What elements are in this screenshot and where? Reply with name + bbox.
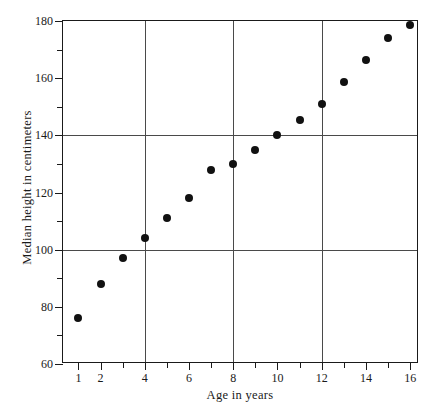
x-tick-major — [233, 362, 234, 370]
y-tick-label: 120 — [35, 185, 53, 200]
y-tick-major — [55, 193, 63, 194]
x-tick-minor — [255, 362, 256, 368]
y-tick-label: 100 — [35, 242, 53, 257]
x-tick-label: 14 — [360, 371, 372, 386]
x-tick-minor — [211, 362, 212, 368]
data-point — [74, 314, 82, 322]
data-point — [251, 146, 259, 154]
x-tick-label: 10 — [271, 371, 283, 386]
y-tick-major — [55, 78, 63, 79]
x-tick-major — [189, 362, 190, 370]
data-point — [273, 131, 281, 139]
y-tick-major — [55, 21, 63, 22]
x-tick-label: 16 — [404, 371, 416, 386]
y-tick-major — [55, 250, 63, 251]
data-point — [362, 56, 370, 64]
x-tick-label: 2 — [98, 371, 104, 386]
x-tick-major — [78, 362, 79, 370]
data-point — [141, 234, 149, 242]
x-tick-minor — [123, 362, 124, 368]
x-tick-minor — [388, 362, 389, 368]
y-tick-minor — [57, 278, 63, 279]
x-tick-minor — [167, 362, 168, 368]
figure-scatter-plot: Median height in centimeters 60801001201… — [0, 0, 435, 419]
x-tick-label: 4 — [142, 371, 148, 386]
data-point — [406, 21, 414, 29]
data-point — [207, 166, 215, 174]
y-tick-minor — [57, 164, 63, 165]
data-point — [119, 254, 127, 262]
data-point — [296, 116, 304, 124]
y-tick-minor — [57, 107, 63, 108]
y-axis-title: Median height in centimeters — [20, 68, 35, 308]
x-tick-minor — [344, 362, 345, 368]
x-tick-label: 8 — [230, 371, 236, 386]
y-tick-label: 160 — [35, 71, 53, 86]
data-point — [163, 214, 171, 222]
y-tick-major — [55, 135, 63, 136]
data-point — [340, 78, 348, 86]
y-tick-major — [55, 364, 63, 365]
x-tick-major — [322, 362, 323, 370]
data-point — [229, 160, 237, 168]
y-tick-major — [55, 307, 63, 308]
gridline-vertical — [322, 21, 323, 362]
y-tick-label: 140 — [35, 128, 53, 143]
y-tick-minor — [57, 335, 63, 336]
x-axis-title: Age in years — [62, 388, 418, 403]
x-tick-major — [277, 362, 278, 370]
gridline-vertical — [233, 21, 234, 362]
x-tick-major — [101, 362, 102, 370]
data-point — [384, 34, 392, 42]
x-tick-label: 6 — [186, 371, 192, 386]
y-tick-label: 60 — [41, 357, 53, 372]
y-tick-label: 180 — [35, 14, 53, 29]
x-tick-label: 1 — [75, 371, 81, 386]
y-tick-label: 80 — [41, 299, 53, 314]
data-point — [185, 194, 193, 202]
gridline-horizontal — [63, 250, 417, 251]
data-point — [318, 100, 326, 108]
gridline-vertical — [145, 21, 146, 362]
x-tick-minor — [300, 362, 301, 368]
x-tick-major — [410, 362, 411, 370]
gridline-horizontal — [63, 135, 417, 136]
x-tick-label: 12 — [316, 371, 328, 386]
plot-area: 6080100120140160180 1246810121416 — [62, 20, 418, 363]
x-tick-major — [145, 362, 146, 370]
y-tick-minor — [57, 221, 63, 222]
y-tick-minor — [57, 50, 63, 51]
x-tick-major — [366, 362, 367, 370]
data-point — [97, 280, 105, 288]
